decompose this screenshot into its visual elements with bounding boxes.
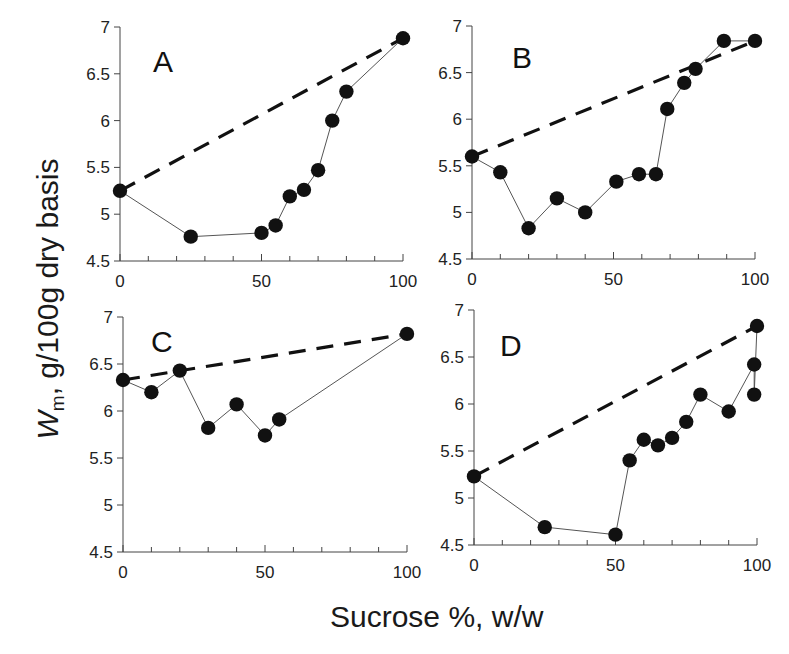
x-axis-title: Sucrose %, w/w [330, 600, 543, 634]
data-point-marker [578, 205, 592, 219]
data-point-marker [632, 167, 646, 181]
data-point-marker [677, 76, 691, 90]
y-tick-label: 5 [455, 489, 464, 508]
data-point-marker [748, 34, 762, 48]
data-point-marker [116, 373, 130, 387]
panel-letter: B [512, 41, 532, 74]
data-point-marker [272, 412, 286, 426]
y-tick-label: 4.5 [89, 543, 113, 562]
data-point-marker [144, 385, 158, 399]
data-point-marker [521, 221, 535, 235]
data-point-marker [660, 102, 674, 116]
data-point-marker [538, 520, 552, 534]
y-tick-label: 6 [455, 395, 464, 414]
y-tick-label: 5.5 [89, 449, 113, 468]
y-tick-label: 6.5 [438, 64, 462, 83]
data-point-marker [339, 84, 353, 98]
y-tick-label: 5 [453, 203, 462, 222]
y-tick-label: 6 [104, 402, 113, 421]
data-point-marker [608, 527, 622, 541]
x-tick-label: 100 [741, 270, 769, 289]
y-tick-label: 5.5 [440, 442, 464, 461]
panel-b: 4.555.566.57050100B [438, 17, 769, 289]
y-tick-label: 7 [453, 17, 462, 36]
data-point-marker [722, 404, 736, 418]
y-tick-label: 4.5 [86, 252, 110, 271]
data-point-marker [113, 184, 127, 198]
data-point-marker [396, 31, 410, 45]
y-tick-label: 5.5 [438, 157, 462, 176]
panel-d: 4.555.566.57050100D [440, 301, 771, 575]
panel-letter: A [153, 45, 173, 78]
data-point-marker [550, 191, 564, 205]
data-point-marker [173, 363, 187, 377]
data-point-marker [254, 226, 268, 240]
data-point-marker [325, 113, 339, 127]
x-tick-label: 0 [118, 563, 127, 582]
data-point-marker [637, 433, 651, 447]
data-point-marker [649, 167, 663, 181]
y-axis-title: Wm, g/100g dry basis [31, 119, 69, 479]
y-axis-title-subscript: m [47, 395, 68, 411]
y-tick-label: 6.5 [89, 355, 113, 374]
data-point-marker [268, 218, 282, 232]
data-point-marker [688, 62, 702, 76]
data-point-marker [493, 165, 507, 179]
x-tick-label: 100 [393, 563, 421, 582]
x-tick-label: 0 [115, 272, 124, 291]
data-point-marker [400, 327, 414, 341]
data-point-marker [258, 428, 272, 442]
data-point-marker [297, 183, 311, 197]
y-tick-label: 6 [453, 110, 462, 129]
y-tick-label: 7 [101, 18, 110, 37]
data-point-marker [184, 229, 198, 243]
y-tick-label: 6.5 [86, 65, 110, 84]
figure-canvas: 4.555.566.57050100A 4.555.566.57050100B … [0, 0, 789, 654]
panel-letter: D [500, 329, 522, 362]
data-point-marker [609, 174, 623, 188]
y-tick-label: 5.5 [86, 158, 110, 177]
y-tick-label: 5 [101, 205, 110, 224]
y-tick-label: 4.5 [440, 536, 464, 555]
data-point-marker [467, 469, 481, 483]
y-tick-label: 5 [104, 496, 113, 515]
panel-a: 4.555.566.57050100A [86, 18, 417, 291]
data-point-marker [622, 453, 636, 467]
x-tick-label: 0 [467, 270, 476, 289]
data-point-marker [201, 421, 215, 435]
y-tick-label: 7 [104, 308, 113, 327]
y-tick-label: 6.5 [440, 348, 464, 367]
x-tick-label: 100 [389, 272, 417, 291]
panel-c: 4.555.566.57050100C [89, 308, 421, 582]
y-tick-label: 6 [101, 112, 110, 131]
y-axis-title-main: W [31, 411, 64, 439]
data-point-marker [693, 387, 707, 401]
data-point-marker [747, 357, 761, 371]
data-point-marker [750, 319, 764, 333]
y-axis-title-units: , g/100g dry basis [31, 159, 64, 396]
data-point-marker [747, 387, 761, 401]
data-point-marker [311, 163, 325, 177]
panel-letter: C [151, 325, 173, 358]
x-tick-label: 50 [252, 272, 271, 291]
y-tick-label: 4.5 [438, 250, 462, 269]
x-tick-label: 50 [606, 556, 625, 575]
data-point-marker [717, 34, 731, 48]
data-point-marker [465, 149, 479, 163]
x-tick-label: 100 [743, 556, 771, 575]
data-point-marker [229, 397, 243, 411]
data-point-marker [679, 415, 693, 429]
data-point-marker [651, 438, 665, 452]
data-point-marker [665, 431, 679, 445]
x-tick-label: 0 [469, 556, 478, 575]
data-point-marker [283, 189, 297, 203]
x-tick-label: 50 [256, 563, 275, 582]
y-tick-label: 7 [455, 301, 464, 320]
x-tick-label: 50 [604, 270, 623, 289]
